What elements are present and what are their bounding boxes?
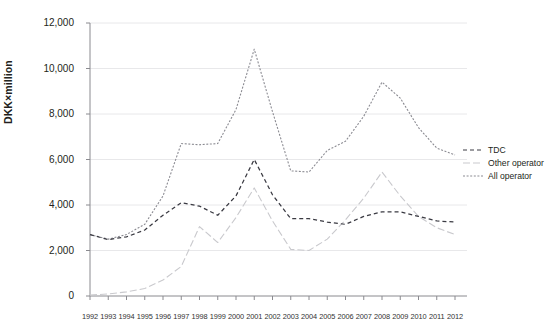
legend-swatch-other-operator — [463, 159, 483, 167]
series-line-other-operator — [90, 172, 455, 295]
legend-label-tdc: TDC — [488, 145, 506, 155]
legend-swatch-tdc — [463, 146, 483, 154]
legend-swatch-all-operator — [463, 172, 483, 180]
chart-legend: TDC Other operator All operator — [463, 143, 544, 182]
chart-container: DKK×million 02,0004,0006,0008,00010,0001… — [0, 0, 554, 331]
legend-item-all-operator[interactable]: All operator — [463, 169, 544, 182]
legend-label-all-operator: All operator — [488, 171, 532, 181]
legend-item-tdc[interactable]: TDC — [463, 143, 544, 156]
legend-label-other-operator: Other operator — [488, 158, 544, 168]
legend-item-other-operator[interactable]: Other operator — [463, 156, 544, 169]
x-axis-tick-label: 2012 — [441, 312, 469, 321]
series-line-tdc — [90, 160, 455, 240]
series-line-all-operator — [90, 49, 455, 239]
